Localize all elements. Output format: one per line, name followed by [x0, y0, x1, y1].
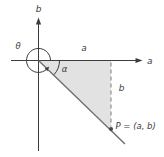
point-p-label: P = (a, b)	[116, 121, 156, 131]
theta-label: θ	[15, 41, 21, 51]
angle-standard-position-diagram: b a θ α a b P = (a, b)	[0, 0, 164, 157]
b-axis-label: b	[36, 4, 42, 14]
a-axis-arrowhead	[136, 58, 143, 63]
alpha-label: α	[62, 64, 68, 74]
b-axis-arrowhead	[36, 18, 41, 25]
segment-a-label: a	[81, 43, 87, 53]
segment-b-label: b	[119, 83, 125, 93]
point-p-dot	[109, 127, 113, 131]
diagram-canvas: b a θ α a b P = (a, b)	[0, 0, 164, 157]
a-axis-label: a	[147, 56, 153, 66]
